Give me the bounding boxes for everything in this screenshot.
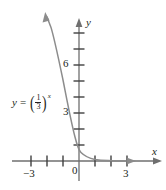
x-axis-arrowhead — [153, 158, 162, 165]
y-tick-label-6: 6 — [63, 58, 69, 69]
equation-annotation: y = ( 1 3 ) x — [12, 94, 51, 112]
y-axis-label: y — [86, 17, 91, 28]
equation-close-paren: ) — [42, 95, 47, 111]
y-axis — [76, 18, 83, 181]
fraction-denominator: 3 — [35, 103, 41, 111]
x-axis — [12, 158, 162, 165]
fraction-numerator: 1 — [35, 94, 41, 102]
x-axis-label: x — [152, 146, 157, 157]
equation-equals-sign: = — [20, 97, 26, 108]
exponential-curve — [43, 12, 136, 164]
equation-lhs: y — [12, 97, 17, 108]
equation-open-paren: ( — [30, 95, 35, 111]
y-tick-label-3: 3 — [63, 106, 69, 117]
origin-label: 0 — [72, 165, 78, 176]
x-tick-label-neg3: −3 — [23, 168, 35, 179]
curve-right-arrowhead — [127, 158, 136, 164]
equation-fraction: 1 3 — [35, 94, 41, 112]
x-tick-label-3: 3 — [123, 168, 129, 179]
y-axis-arrowhead — [76, 18, 83, 27]
curve-top-arrowhead — [43, 12, 50, 22]
exponential-decay-figure: 6 3 −3 3 0 y x y = ( 1 3 ) x — [0, 0, 166, 190]
equation-exponent: x — [48, 93, 51, 100]
